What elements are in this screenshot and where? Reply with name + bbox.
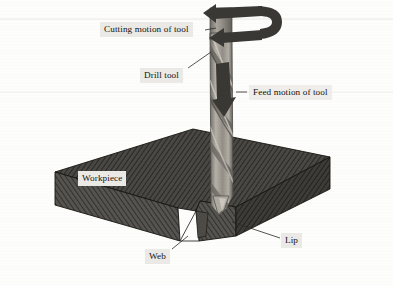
- callout-workpiece: Workpiece: [78, 171, 126, 186]
- callout-web: Web: [145, 249, 170, 264]
- callout-feed-motion: Feed motion of tool: [249, 85, 332, 100]
- callout-cutting-motion: Cutting motion of tool: [100, 22, 193, 37]
- callout-lip: Lip: [281, 233, 302, 248]
- callout-drill-tool: Drill tool: [140, 68, 183, 83]
- figure-canvas: Cutting motion of tool Drill tool Feed m…: [0, 0, 393, 285]
- drilling-diagram-svg: [0, 0, 393, 285]
- notch-inner-wall: [196, 211, 208, 238]
